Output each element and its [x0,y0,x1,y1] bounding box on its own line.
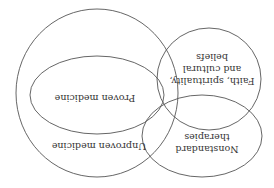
faith-label-line-2: and cultural [183,64,242,75]
unproven-medicine-label: Unproven medicine [51,141,146,152]
nonstandard-label-line-2: therapies [184,132,230,143]
proven-medicine-label: Proven medicine [54,93,135,104]
faith-label-line-1: Faith, spirituality, [170,76,255,87]
venn-diagram: Proven medicine Unproven medicine Faith,… [0,0,274,188]
faith-label-line-3: beliefs [196,52,228,63]
nonstandard-label-line-1: Nonstandard [176,144,239,155]
